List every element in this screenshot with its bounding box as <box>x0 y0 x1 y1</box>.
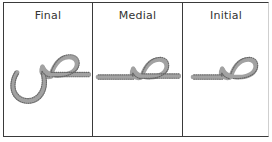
sad-final-form-icon <box>5 36 91 114</box>
table-column-medial: Medial <box>92 3 182 136</box>
sad-initial-form-icon <box>183 36 269 114</box>
figure-root: Final <box>0 0 272 142</box>
glyph-cell-final <box>4 22 92 136</box>
column-header-initial: Initial <box>210 9 242 22</box>
glyph-cell-initial <box>183 22 269 136</box>
letterform-table: Final <box>3 2 269 137</box>
column-header-final: Final <box>35 9 61 22</box>
table-column-final: Final <box>4 3 92 136</box>
column-header-medial: Medial <box>119 9 156 22</box>
glyph-cell-medial <box>93 22 182 136</box>
sad-medial-form-icon <box>95 36 181 114</box>
table-column-initial: Initial <box>182 3 269 136</box>
